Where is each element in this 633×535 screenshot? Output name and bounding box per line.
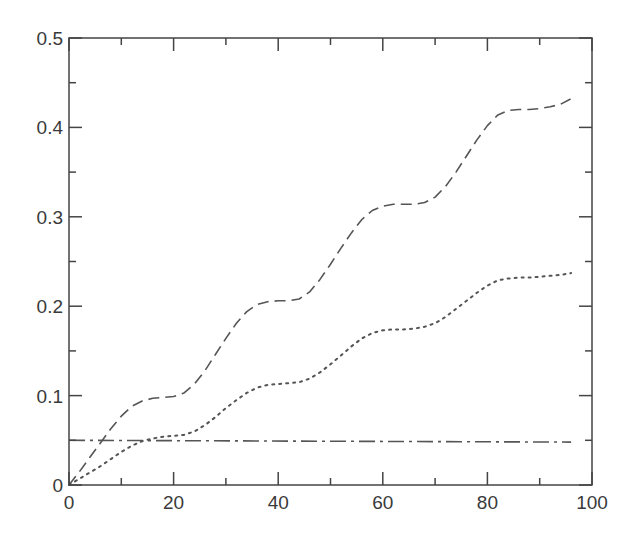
x-tick-label: 20 [163, 492, 184, 513]
plot-frame [69, 38, 592, 485]
axis-ticks [69, 38, 592, 485]
y-tick-label: 0.1 [37, 386, 63, 407]
y-tick-label: 0.5 [37, 28, 63, 49]
y-axis-tick-labels: 00.10.20.30.40.5 [37, 28, 64, 496]
x-tick-label: 100 [576, 492, 608, 513]
y-tick-label: 0 [52, 475, 63, 496]
x-tick-label: 80 [477, 492, 498, 513]
y-tick-label: 0.3 [37, 207, 63, 228]
y-tick-label: 0.2 [37, 296, 63, 317]
line-chart: 020406080100 00.10.20.30.40.5 [0, 0, 633, 535]
series-dotted-line [69, 273, 571, 485]
x-tick-label: 0 [64, 492, 75, 513]
x-tick-label: 60 [372, 492, 393, 513]
x-axis-tick-labels: 020406080100 [64, 492, 608, 513]
x-tick-label: 40 [268, 492, 289, 513]
series-dash-dot-line [69, 440, 571, 442]
series-layer [69, 99, 571, 485]
y-tick-label: 0.4 [37, 117, 64, 138]
series-dashed-line [69, 99, 571, 485]
